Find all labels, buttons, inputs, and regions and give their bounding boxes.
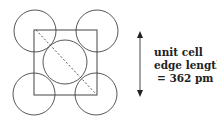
- label-line-3: = 362 pm: [157, 72, 213, 85]
- label-line-1: unit cell: [154, 46, 203, 59]
- arrow-head-up-icon: [137, 31, 143, 38]
- arrow-head-down-icon: [137, 90, 143, 97]
- label-line-2: edge length: [154, 59, 217, 72]
